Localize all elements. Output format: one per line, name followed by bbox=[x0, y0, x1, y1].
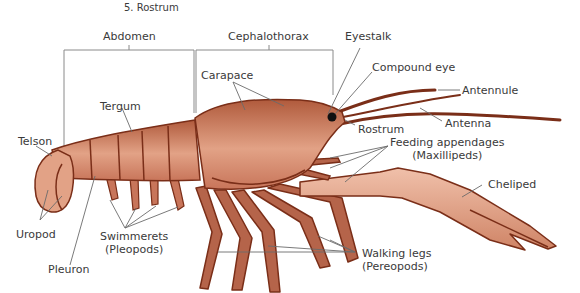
label-walking-line2: (Pereopods) bbox=[362, 260, 431, 273]
label-rostrum: Rostrum bbox=[358, 123, 404, 136]
label-telson: Telson bbox=[18, 135, 52, 148]
label-antenna: Antenna bbox=[445, 117, 491, 130]
label-swimmerets-line1: Swimmerets bbox=[100, 230, 168, 243]
label-walking-legs: Walking legs (Pereopods) bbox=[362, 247, 431, 273]
label-feeding-line2: (Maxillipeds) bbox=[390, 149, 504, 162]
label-swimmerets: Swimmerets (Pleopods) bbox=[100, 230, 168, 256]
label-cheliped: Cheliped bbox=[488, 178, 536, 191]
label-compound-eye: Compound eye bbox=[372, 61, 455, 74]
label-antennule: Antennule bbox=[462, 84, 518, 97]
label-swimmerets-line2: (Pleopods) bbox=[100, 243, 168, 256]
label-cephalothorax: Cephalothorax bbox=[228, 30, 309, 43]
label-pleuron: Pleuron bbox=[48, 263, 89, 276]
walking-legs bbox=[196, 184, 358, 292]
label-carapace: Carapace bbox=[201, 69, 253, 82]
label-tergum: Tergum bbox=[100, 100, 141, 113]
label-feeding-appendages: Feeding appendages (Maxillipeds) bbox=[390, 136, 504, 162]
label-eyestalk: Eyestalk bbox=[345, 30, 391, 43]
label-uropod: Uropod bbox=[16, 228, 56, 241]
label-abdomen: Abdomen bbox=[103, 30, 156, 43]
label-walking-line1: Walking legs bbox=[362, 247, 431, 260]
caption: 5. Rostrum bbox=[124, 2, 179, 13]
abdomen-body bbox=[52, 120, 200, 181]
label-feeding-line1: Feeding appendages bbox=[390, 136, 504, 149]
tail-fan bbox=[35, 150, 73, 212]
